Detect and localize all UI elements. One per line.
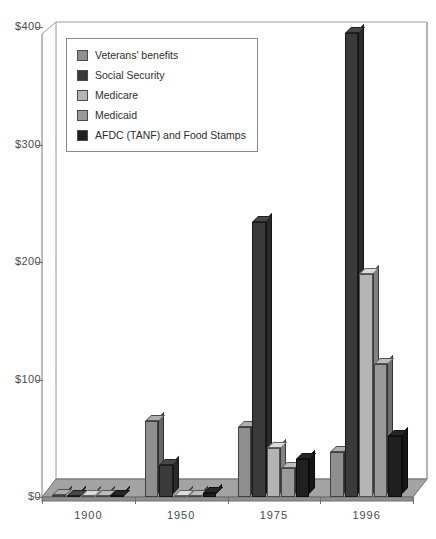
- legend-item: Medicaid: [77, 107, 249, 124]
- bar: [345, 33, 359, 497]
- legend-item: Veterans' benefits: [77, 47, 249, 64]
- bar: [174, 496, 188, 498]
- bar: [374, 364, 388, 497]
- bar: [203, 493, 217, 497]
- bar-face: [238, 427, 252, 498]
- legend-item-label: Veterans' benefits: [95, 50, 178, 61]
- bar: [96, 496, 110, 498]
- legend-swatch: [77, 50, 88, 61]
- legend-item-label: AFDC (TANF) and Food Stamps: [95, 130, 246, 141]
- legend-item: Social Security: [77, 67, 249, 84]
- bar-chart: $0$100$200$300$400 1900195019751996 Vete…: [0, 0, 436, 539]
- bar: [359, 274, 373, 497]
- legend-item: AFDC (TANF) and Food Stamps: [77, 127, 249, 144]
- bar: [188, 496, 202, 498]
- bar: [252, 222, 266, 497]
- bar-face: [252, 222, 266, 497]
- bar-face: [345, 33, 359, 497]
- bar: [145, 421, 159, 497]
- bar: [296, 459, 310, 497]
- chart-legend: Veterans' benefitsSocial SecurityMedicar…: [66, 38, 258, 152]
- bar-face: [374, 364, 388, 497]
- bar-face: [203, 493, 217, 497]
- bar: [67, 496, 81, 498]
- bar: [330, 452, 344, 497]
- legend-swatch: [77, 130, 88, 141]
- legend-swatch: [77, 110, 88, 121]
- bar-face: [267, 448, 281, 497]
- bar-face: [145, 421, 159, 497]
- bar-top: [203, 487, 223, 493]
- bar-face: [388, 436, 402, 497]
- bar-face: [159, 465, 173, 497]
- bar-face: [296, 459, 310, 497]
- bar: [81, 496, 95, 498]
- bar: [267, 448, 281, 497]
- legend-item-label: Medicare: [95, 90, 138, 101]
- bar: [388, 436, 402, 497]
- legend-swatch: [77, 90, 88, 101]
- bar-face: [281, 468, 295, 497]
- bar-face: [359, 274, 373, 497]
- bar: [238, 427, 252, 498]
- bar-face: [330, 452, 344, 497]
- bar: [52, 495, 66, 497]
- legend-item-label: Medicaid: [95, 110, 137, 121]
- bar: [281, 468, 295, 497]
- legend-swatch: [77, 70, 88, 81]
- legend-item: Medicare: [77, 87, 249, 104]
- bar-side: [402, 427, 408, 494]
- bar-face: [52, 495, 66, 497]
- legend-item-label: Social Security: [95, 70, 164, 81]
- bar: [110, 496, 124, 498]
- bar: [159, 465, 173, 497]
